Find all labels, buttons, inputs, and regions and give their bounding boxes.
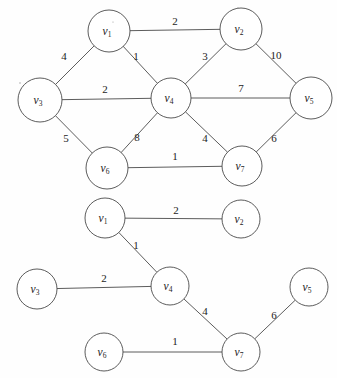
- graph-edge-v3-v6: [55, 116, 92, 153]
- edge-weight-label: 3: [202, 50, 208, 62]
- edge-weight-label: 4: [61, 50, 67, 62]
- edge-weight-label: 4: [202, 132, 208, 144]
- graph-edge-v1-v2: [130, 29, 220, 30]
- edge-weight-label: 8: [134, 131, 140, 143]
- edge-weight-label: 2: [101, 272, 107, 284]
- edge-weight-label: 7: [238, 82, 244, 94]
- edge-weight-label: 2: [173, 204, 179, 216]
- graph-edge-v1-v4: [123, 46, 157, 83]
- graph-edge-v3-v4: [62, 98, 151, 99]
- edge-weight-label: 2: [102, 83, 108, 95]
- edge-weight-label: 1: [133, 239, 139, 251]
- edge-weight-label: 5: [63, 132, 69, 144]
- edge-weight-label: 2: [172, 15, 178, 27]
- edge-weight-label: 6: [271, 132, 277, 144]
- edge-weight-label: 6: [271, 309, 277, 321]
- graph-svg: v1v2v3v4v5v6v7v1v2v3v4v5v6v7 24131025784…: [0, 0, 337, 378]
- scan-artifacts-layer: [19, 7, 238, 83]
- edge-weight-label: 1: [172, 150, 178, 162]
- graph-edge-v6-v7: [128, 166, 222, 167]
- nodes-layer: v1v2v3v4v5v6v7v1v2v3v4v5v6v7: [17, 8, 332, 371]
- edge-weight-label: 1: [133, 50, 139, 62]
- edge-weight-label: 1: [172, 335, 178, 347]
- graph-edge-v3-v4: [57, 286, 151, 288]
- figure-canvas: v1v2v3v4v5v6v7v1v2v3v4v5v6v7 24131025784…: [0, 0, 337, 378]
- edge-weight-label: 4: [202, 305, 208, 317]
- edge-weight-label: 10: [271, 49, 283, 61]
- graph-edge-v1-v2: [125, 218, 222, 219]
